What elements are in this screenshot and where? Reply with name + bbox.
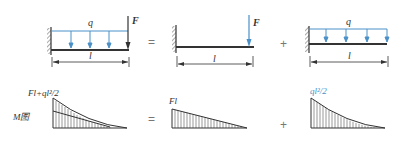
moment-value-label: Fl [168, 96, 177, 106]
superposition-diagram: q F l = F l + [0, 0, 399, 148]
distributed-load-arrows-icon [69, 31, 111, 48]
distributed-load-arrows-icon [324, 29, 389, 42]
force-arrow-icon [247, 15, 252, 47]
beam-panel-combined: q F l [47, 15, 139, 67]
force-label: F [252, 17, 260, 28]
equals-sign: = [148, 112, 155, 126]
divider-line [53, 111, 110, 127]
length-label: l [89, 50, 92, 61]
moment-diagram-distributed: ql²/2 [310, 86, 385, 128]
moment-value-label: Fl+ql²/2 [27, 88, 59, 98]
load-label: q [88, 17, 93, 28]
hatching [314, 100, 374, 128]
plus-sign: + [280, 37, 287, 51]
force-arrow-icon [126, 16, 131, 50]
moment-diagram-combined: Fl+ql²/2 [27, 88, 127, 128]
force-label: F [131, 15, 139, 26]
moment-value-label: ql²/2 [310, 86, 327, 96]
load-label: q [346, 16, 351, 27]
length-label: l [213, 53, 216, 64]
beam-panel-distributed: q l [305, 16, 389, 67]
length-label: l [348, 50, 351, 61]
moment-diagram-label: M图 [12, 112, 31, 122]
equals-sign: = [148, 35, 155, 49]
beam-panel-force: F l [172, 15, 260, 67]
plus-sign: + [280, 118, 287, 132]
moment-diagram-force: Fl [168, 96, 247, 128]
